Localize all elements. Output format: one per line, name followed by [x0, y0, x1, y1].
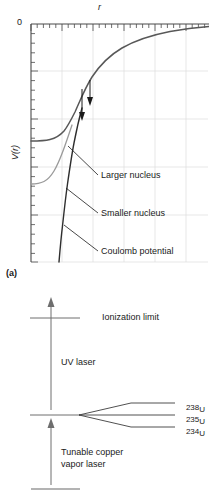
curve-label-smaller-nucleus: Smaller nucleus — [101, 208, 165, 218]
tunable-laser-label-line2: vapor laser — [61, 459, 106, 469]
potential-energy-plot — [0, 0, 209, 275]
isotope-branch-234 — [79, 415, 175, 427]
x-axis-title: r — [98, 2, 101, 12]
isotope-label-234u: 234U — [177, 420, 205, 448]
y-axis-title: V(r) — [10, 145, 20, 160]
isotope-branch-238 — [79, 403, 175, 415]
curve-label-coulomb-potential: Coulomb potential — [101, 246, 174, 256]
leader-larger-nucleus — [68, 146, 98, 175]
ionization-limit-label: Ionization limit — [102, 312, 159, 322]
uv-laser-arrow — [48, 297, 55, 410]
curve-smaller-nucleus — [31, 125, 72, 184]
isotope-splitting-fan — [79, 403, 175, 427]
y-axis-zero-label: 0 — [17, 17, 22, 27]
barrier-arrows — [79, 80, 93, 121]
isotope-element-234: U — [199, 429, 205, 438]
isotope-mass-234: 234 — [186, 427, 199, 436]
tunable-laser-arrow — [48, 418, 55, 485]
tunable-laser-label-line1: Tunable copper — [61, 447, 123, 457]
figure-container: r 0 V(r) Larger nucleus Smaller nucleus … — [0, 0, 209, 500]
grid-lines — [31, 24, 208, 262]
y-axis-ticks — [31, 34, 38, 262]
panel-label-a: (a) — [6, 268, 17, 278]
uv-laser-label: UV laser — [61, 357, 96, 367]
curve-label-larger-nucleus: Larger nucleus — [101, 170, 161, 180]
curve-larger-nucleus — [31, 27, 209, 141]
